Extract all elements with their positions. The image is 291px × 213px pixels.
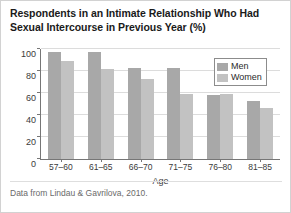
y-axis-tick xyxy=(37,114,40,115)
chart-title: Respondents in an Intimate Relationship … xyxy=(10,7,260,34)
y-axis-tick xyxy=(37,158,40,159)
legend-swatch-men-icon xyxy=(217,63,228,71)
bar-men-61–65 xyxy=(88,52,101,159)
x-axis-tick-label: 81–85 xyxy=(248,162,272,172)
bar-women-71–75 xyxy=(180,94,193,159)
legend-label-men: Men xyxy=(231,61,249,72)
x-axis-tick-label: 61–65 xyxy=(89,162,113,172)
bar-men-57–60 xyxy=(48,52,61,159)
source-divider xyxy=(10,181,282,182)
bar-men-76–80 xyxy=(207,95,220,159)
legend-item-women: Women xyxy=(217,72,262,83)
gridline xyxy=(41,48,280,49)
legend-label-women: Women xyxy=(231,72,262,83)
gridline xyxy=(41,136,280,137)
y-axis-tick xyxy=(37,136,40,137)
bar-men-66–70 xyxy=(128,68,141,159)
figure-container: Respondents in an Intimate Relationship … xyxy=(0,0,291,213)
x-axis-tick-label: 76–80 xyxy=(208,162,232,172)
chart-legend: Men Women xyxy=(214,58,267,86)
y-axis-tick xyxy=(37,48,40,49)
x-axis-tick-label: 71–75 xyxy=(169,162,193,172)
bar-women-61–65 xyxy=(101,69,114,159)
bar-women-57–60 xyxy=(61,61,74,159)
bar-group xyxy=(48,49,74,159)
gridline xyxy=(41,114,280,115)
y-axis-tick xyxy=(37,92,40,93)
bar-women-81–85 xyxy=(260,108,273,159)
bar-men-81–85 xyxy=(247,101,260,159)
source-note: Data from Lindau & Gavrilova, 2010. xyxy=(10,188,148,198)
x-axis-line xyxy=(40,159,280,160)
bar-women-66–70 xyxy=(141,79,154,159)
bar-group xyxy=(128,49,154,159)
gridline xyxy=(41,92,280,93)
bar-men-71–75 xyxy=(167,68,180,159)
legend-item-men: Men xyxy=(217,61,262,72)
bar-women-76–80 xyxy=(220,94,233,159)
y-axis-line xyxy=(40,49,41,159)
legend-swatch-women-icon xyxy=(217,74,228,82)
bar-group xyxy=(88,49,114,159)
x-axis-tick-label: 66–70 xyxy=(129,162,153,172)
y-axis-tick xyxy=(37,70,40,71)
bar-group xyxy=(167,49,193,159)
x-axis-tick-label: 57–60 xyxy=(49,162,73,172)
